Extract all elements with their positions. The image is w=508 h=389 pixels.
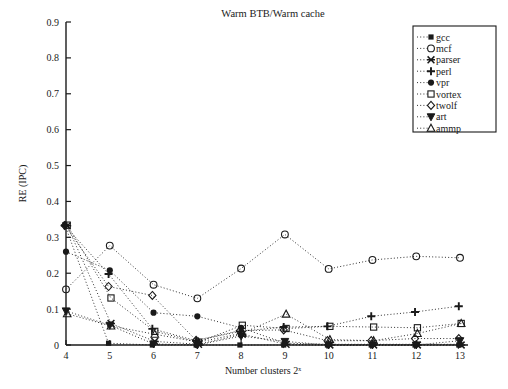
legend-label: twolf (436, 100, 458, 111)
legend-label: vpr (436, 77, 450, 88)
data-point-marker (194, 313, 200, 319)
legend-label: parser (436, 54, 461, 65)
series-line (66, 311, 460, 345)
chart-title: Warm BTB/Warm cache (221, 8, 325, 19)
series-line (65, 225, 459, 340)
x-tick-label: 6 (151, 350, 156, 361)
series-line (66, 234, 460, 298)
x-axis-label: Number clusters 2ˣ (225, 365, 301, 376)
series-line (67, 314, 461, 342)
y-tick-label: 0.1 (47, 304, 60, 315)
legend-label: gcc (436, 32, 450, 43)
data-point-marker (428, 80, 434, 86)
data-point-marker (108, 295, 114, 301)
data-point-marker (325, 266, 332, 273)
y-tick-label: 0.5 (47, 160, 60, 171)
series-mcf (63, 231, 464, 302)
data-point-marker (282, 310, 290, 317)
chart-canvas: 00.10.20.30.40.50.60.70.80.9456789101112… (0, 0, 508, 389)
data-point-marker (150, 281, 157, 288)
x-tick-label: 12 (411, 350, 421, 361)
legend-label: perl (436, 66, 452, 77)
data-point-marker (150, 310, 156, 316)
x-tick-label: 10 (324, 350, 334, 361)
x-tick-label: 5 (107, 350, 112, 361)
series-vortex (64, 222, 464, 345)
series-line (65, 225, 459, 345)
data-point-marker (107, 267, 113, 273)
series-line (67, 226, 461, 345)
series-line (67, 225, 461, 342)
y-tick-label: 0 (54, 340, 59, 351)
data-point-marker (106, 242, 113, 249)
y-tick-label: 0.3 (47, 232, 60, 243)
x-tick-label: 13 (455, 350, 465, 361)
series-twolf (61, 221, 462, 344)
x-tick-label: 11 (368, 350, 378, 361)
data-point-marker (411, 308, 419, 316)
y-tick-label: 0.7 (47, 88, 60, 99)
series-ammp (63, 310, 465, 345)
x-tick-label: 4 (64, 350, 69, 361)
series-line (65, 225, 459, 340)
legend-label: ammp (436, 123, 461, 134)
y-tick-label: 0.6 (47, 124, 60, 135)
data-point-marker (238, 265, 245, 272)
legend-label: vortex (436, 89, 462, 100)
series-vpr (63, 249, 463, 348)
data-point-marker (457, 254, 464, 261)
series-art (62, 308, 464, 349)
data-point-marker (428, 34, 433, 39)
x-tick-label: 9 (282, 350, 287, 361)
y-tick-label: 0.2 (47, 268, 60, 279)
y-tick-label: 0.9 (47, 17, 60, 28)
data-point-marker (367, 312, 375, 320)
data-point-marker (281, 231, 288, 238)
legend-label: art (436, 111, 447, 122)
chart-figure: 00.10.20.30.40.50.60.70.80.9456789101112… (0, 0, 508, 389)
y-tick-label: 0.4 (47, 196, 60, 207)
series-parser (63, 222, 465, 348)
legend-box (413, 26, 496, 132)
y-axis-label: RE (IPC) (17, 165, 29, 203)
data-point-marker (106, 341, 111, 346)
y-tick-label: 0.8 (47, 52, 60, 63)
data-point-marker (237, 342, 242, 347)
series-perl (61, 221, 463, 344)
data-point-marker (455, 302, 463, 310)
series-gcc (62, 222, 461, 347)
legend-label: mcf (436, 43, 452, 54)
x-tick-label: 7 (195, 350, 200, 361)
data-point-marker (149, 291, 156, 299)
data-point-marker (63, 249, 69, 255)
x-tick-label: 8 (239, 350, 244, 361)
